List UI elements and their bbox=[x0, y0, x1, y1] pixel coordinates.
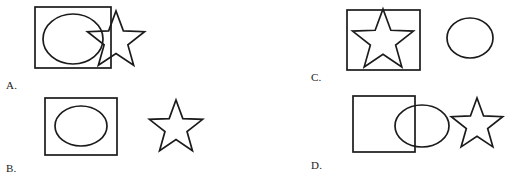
option-d-shapes bbox=[0, 0, 507, 172]
option-d-star bbox=[451, 98, 502, 147]
option-d[interactable]: D. bbox=[0, 0, 507, 172]
shape-options-figure: A.B.C.D. bbox=[0, 0, 507, 172]
option-d-label: D. bbox=[311, 160, 322, 171]
